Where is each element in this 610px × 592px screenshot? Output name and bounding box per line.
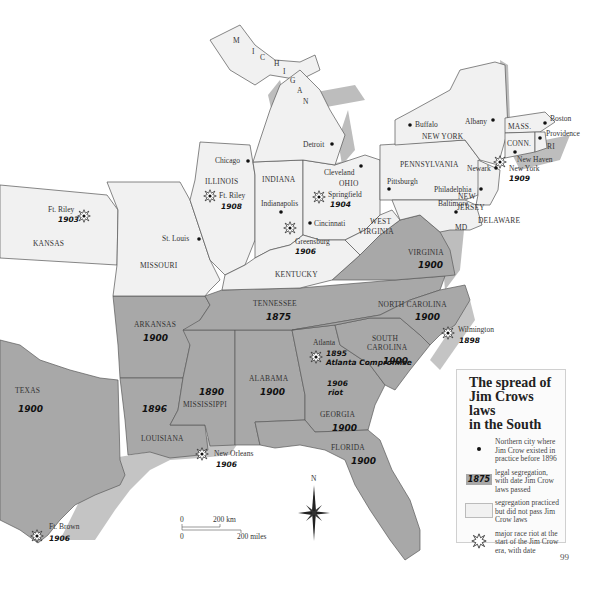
- riot-star-icon: [471, 533, 487, 549]
- svg-text:1895: 1895: [326, 349, 347, 358]
- svg-text:A: A: [297, 86, 303, 95]
- label-virginia: VIRGINIA: [408, 248, 444, 257]
- riot-star-icon: [442, 327, 455, 340]
- label-md: MD: [455, 223, 468, 232]
- svg-text:1906: 1906: [295, 247, 316, 256]
- city-dot-icon: [477, 447, 481, 451]
- label-tennessee: TENNESSEE: [253, 299, 297, 308]
- svg-text:New York: New York: [509, 164, 540, 173]
- year-arkansas: 1900: [143, 333, 168, 343]
- city-providence: Providence: [546, 129, 580, 138]
- riot-star-icon: [310, 351, 323, 364]
- svg-text:Springfield: Springfield: [328, 190, 362, 199]
- legend-item-city: Northern city where Jim Crow existed in …: [463, 438, 559, 464]
- scale-bar: [182, 524, 241, 533]
- svg-text:H: H: [274, 59, 280, 68]
- label-new-york: NEW YORK: [422, 132, 464, 141]
- city-indianapolis: Indianapolis: [261, 199, 298, 208]
- svg-text:Ft. Riley: Ft. Riley: [219, 191, 246, 200]
- city-pittsburgh: Pittsburgh: [387, 177, 418, 186]
- page-number: 99: [560, 552, 569, 562]
- label-alabama: ALABAMA: [249, 374, 289, 383]
- svg-text:I: I: [252, 47, 255, 56]
- label-ohio: OHIO: [339, 179, 359, 188]
- legend-item-riot: major race riot at the start of the Jim …: [463, 530, 559, 556]
- label-louisiana: LOUISIANA: [141, 434, 184, 443]
- year-louisiana: 1896: [142, 404, 167, 414]
- label-conn: CONN.: [507, 139, 531, 148]
- year-alabama: 1900: [260, 387, 285, 397]
- scale-zero-miles: 0: [180, 532, 184, 541]
- legend-item-practiced: segregation practiced but did not pass J…: [463, 499, 559, 525]
- svg-text:1908: 1908: [221, 202, 242, 211]
- practiced-segregation-swatch: [465, 503, 493, 518]
- svg-text:Greensburg: Greensburg: [295, 237, 330, 246]
- svg-text:Ft. Brown: Ft. Brown: [49, 522, 80, 531]
- svg-text:1906: 1906: [327, 379, 348, 388]
- label-carolina-sc: CAROLINA: [367, 343, 408, 352]
- label-florida: FLORIDA: [331, 443, 365, 452]
- compass-north-label: N: [311, 474, 317, 483]
- label-missouri: MISSOURI: [140, 261, 178, 270]
- scale-km-label: 200 km: [213, 515, 236, 524]
- year-mississippi: 1890: [199, 387, 224, 397]
- svg-text:1904: 1904: [330, 200, 351, 209]
- svg-text:G: G: [290, 76, 296, 85]
- svg-text:1903: 1903: [58, 215, 79, 224]
- riot-star-icon: [78, 210, 91, 223]
- label-illinois: ILLINOIS: [205, 177, 238, 186]
- svg-text:Atlanta: Atlanta: [313, 338, 336, 347]
- svg-text:M: M: [233, 36, 240, 45]
- svg-text:C: C: [260, 53, 265, 62]
- scale-miles-label: 200 miles: [237, 532, 266, 541]
- label-delaware: DELAWARE: [478, 216, 520, 225]
- legal-segregation-swatch: 1875: [466, 474, 492, 485]
- svg-text:1906: 1906: [49, 534, 70, 543]
- city-cleveland: Cleveland: [324, 168, 355, 177]
- city-baltimore: Baltimore: [438, 199, 469, 208]
- label-south: SOUTH: [372, 334, 398, 343]
- city-chicago: Chicago: [215, 156, 240, 165]
- riot-star-icon: [196, 448, 209, 461]
- svg-text:1898: 1898: [459, 336, 480, 345]
- svg-text:riot: riot: [328, 388, 343, 397]
- year-virginia: 1900: [418, 260, 443, 270]
- label-pennsylvania: PENNSYLVANIA: [400, 160, 459, 169]
- label-mass: MASS.: [508, 122, 531, 131]
- label-georgia: GEORGIA: [320, 410, 356, 419]
- svg-text:Wilmington: Wilmington: [458, 325, 494, 334]
- city-st-louis: St. Louis: [162, 234, 189, 243]
- year-texas: 1900: [18, 404, 43, 414]
- city-albany: Albany: [465, 117, 487, 126]
- year-georgia: 1900: [332, 423, 357, 433]
- scale-zero-km: 0: [180, 515, 184, 524]
- label-ri: RI: [547, 142, 555, 151]
- legend: The spread of Jim Crows laws in the Sout…: [456, 369, 566, 543]
- city-philadelphia: Philadelphia: [434, 185, 472, 194]
- compass-rose-icon: [298, 485, 330, 541]
- svg-text:N: N: [303, 97, 309, 106]
- label-virginia-wv: VIRGINIA: [358, 227, 394, 236]
- label-west: WEST: [370, 217, 391, 226]
- riot-star-icon: [494, 156, 507, 169]
- label-indiana: INDIANA: [262, 175, 296, 184]
- legend-item-legal: 1875 legal segregation, with date Jim Cr…: [463, 469, 559, 495]
- legend-title: The spread of Jim Crows laws in the Sout…: [469, 376, 559, 432]
- city-buffalo: Buffalo: [415, 120, 438, 129]
- riot-star-icon: [313, 191, 326, 204]
- svg-text:1909: 1909: [509, 174, 530, 183]
- city-cincinnati: Cincinnati: [314, 219, 345, 228]
- label-north-carolina: NORTH CAROLINA: [378, 300, 447, 309]
- state-michigan-lower: [253, 70, 345, 165]
- svg-text:I: I: [283, 67, 286, 76]
- svg-text:Ft. Riley: Ft. Riley: [48, 205, 75, 214]
- svg-text:Atlanta Compromise: Atlanta Compromise: [325, 358, 412, 367]
- svg-text:1906: 1906: [216, 460, 237, 469]
- city-newark: Newark: [467, 164, 491, 173]
- year-florida: 1900: [351, 456, 376, 466]
- state-florida: [255, 420, 420, 560]
- year-north-carolina: 1900: [415, 312, 440, 322]
- label-kansas: KANSAS: [33, 239, 64, 248]
- riot-star-icon: [31, 530, 44, 543]
- label-mississippi: MISSISSIPPI: [183, 400, 227, 409]
